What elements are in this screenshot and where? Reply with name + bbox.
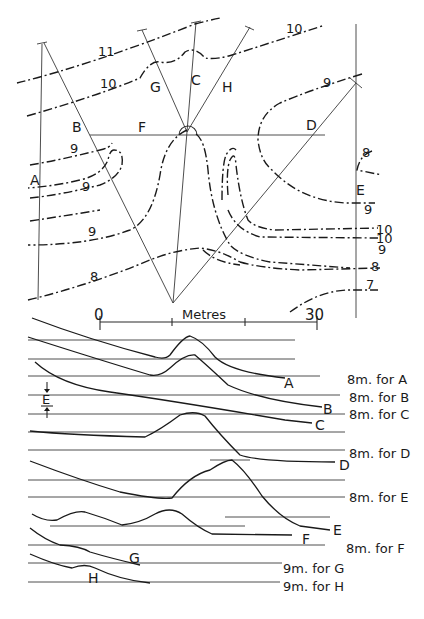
profile-label-f: F [302,531,310,547]
contour-map-with-profiles: A B C D E F G H 11 10 10 9 9 9 9 8 8 9 1… [0,0,424,619]
datum-label-d: 8m. for D [349,446,410,461]
contour-label-8: 8 [90,269,98,284]
vertical-interval-marker: E [41,382,53,418]
scale-unit: Metres [182,307,226,322]
datum-label-g: 9m. for G [283,561,344,576]
profile-label-h: H [88,570,99,586]
contour-label-7: 7 [366,277,374,292]
contour-label-9: 9 [323,75,331,90]
profile-a [32,318,285,378]
datum-label-e: 8m. for E [349,490,408,505]
contour-9-left-outer [30,210,100,221]
label-h: H [222,79,233,95]
cross-section-profiles: E A B C D E F G H 8m. for A 8m. for B 8m… [28,318,410,594]
contour-label-10: 10 [100,76,117,91]
datum-label-f: 8m. for F [346,541,405,556]
contour-9-left-inner [28,150,122,198]
scale-start: 0 [94,306,104,324]
contour-label-9: 9 [82,179,90,194]
contour-10-right-b [222,148,378,238]
contour-9-left-low [28,130,187,245]
contour-label-9: 9 [88,224,96,239]
vertical-interval-label: E [42,392,50,407]
contour-8-lower [28,248,240,300]
scale-end: 30 [305,306,324,324]
section-line-g [142,30,187,132]
contour-label-10: 10 [286,21,303,36]
datum-label-c: 8m. for C [349,407,409,422]
contour-label-8: 8 [362,145,370,160]
profile-label-e: E [333,522,342,538]
contour-map: A B C D E F G H 11 10 10 9 9 9 9 8 8 9 1… [17,18,393,330]
profile-d-e [30,460,330,530]
label-g: G [150,79,161,95]
datum-label-a: 8m. for A [347,372,407,387]
profile-label-a: A [284,375,294,391]
contour-label-9: 9 [378,242,386,257]
contour-label-9: 9 [364,202,372,217]
profile-f [32,510,292,535]
contour-label-8: 8 [371,259,379,274]
contour-7 [290,290,378,312]
contour-label-11: 11 [98,44,115,59]
label-e: E [356,182,365,198]
profile-label-b: B [323,401,333,417]
contour-label-9: 9 [70,141,78,156]
label-c: C [191,72,201,88]
profile-label-c: C [315,417,325,433]
datum-label-h: 9m. for H [283,579,344,594]
section-line-c [173,22,196,303]
profile-g [30,528,140,565]
label-d: D [306,117,317,133]
datum-label-b: 8m. for B [349,390,409,405]
label-a: A [30,172,40,188]
label-b: B [72,119,82,135]
label-f: F [138,119,146,135]
profile-label-g: G [129,550,140,566]
scale-bar: 0 30 Metres [94,306,324,330]
